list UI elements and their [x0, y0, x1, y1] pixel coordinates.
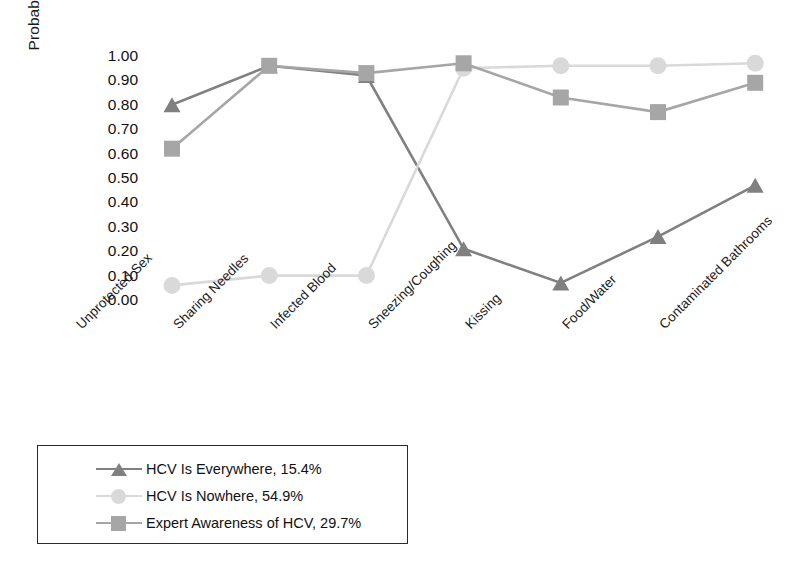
x-axis-tick-label: Infected Blood — [268, 261, 339, 332]
legend-item: Expert Awareness of HCV, 29.7% — [38, 509, 407, 536]
x-axis-tick-label: Unprotected Sex — [74, 251, 155, 332]
chart-legend: HCV Is Everywhere, 15.4%HCV Is Nowhere, … — [37, 445, 408, 544]
x-axis-tick-label: Contaminated Bathrooms — [657, 214, 775, 332]
legend-item-label: HCV Is Nowhere, 54.9% — [146, 488, 303, 504]
x-axis-tick-label: Sharing Needles — [171, 251, 251, 331]
legend-item-label: Expert Awareness of HCV, 29.7% — [146, 515, 361, 531]
x-axis-tick-label: Sneezing/Coughing — [366, 239, 459, 332]
legend-marker-square-icon — [96, 514, 142, 532]
legend-item: HCV Is Nowhere, 54.9% — [38, 482, 407, 509]
legend-marker-triangle-icon — [96, 460, 142, 478]
line-chart: Probability of a Correct Response 1.000.… — [0, 0, 809, 577]
legend-item: HCV Is Everywhere, 15.4% — [38, 455, 407, 482]
x-axis-tick-label: Food/Water — [560, 272, 619, 331]
legend-marker-circle-icon — [96, 487, 142, 505]
legend-item-label: HCV Is Everywhere, 15.4% — [146, 461, 322, 477]
x-axis-tick-label: Kissing — [463, 291, 503, 331]
